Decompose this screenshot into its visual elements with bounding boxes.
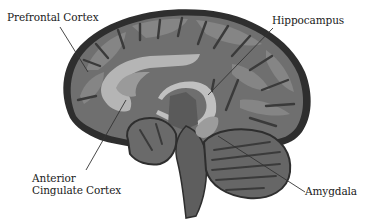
label-acc-line-1: Anterior (32, 172, 121, 184)
label-prefrontal-cortex: Prefrontal Cortex (7, 11, 99, 23)
label-anterior-cingulate-cortex: Anterior Cingulate Cortex (32, 172, 121, 196)
label-hippocampus: Hippocampus (272, 14, 344, 26)
label-acc-line-2: Cingulate Cortex (32, 184, 121, 196)
temporal-lobe (127, 118, 176, 165)
label-amygdala: Amygdala (305, 185, 357, 197)
brainstem (176, 126, 206, 218)
